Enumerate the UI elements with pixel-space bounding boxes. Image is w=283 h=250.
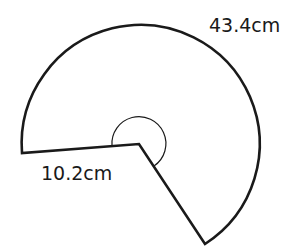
- radius-label: 10.2cm: [41, 162, 112, 184]
- arc-length-label: 43.4cm: [209, 14, 280, 36]
- sector-diagram: 43.4cm 10.2cm: [0, 0, 283, 250]
- sector-outline: [22, 25, 260, 244]
